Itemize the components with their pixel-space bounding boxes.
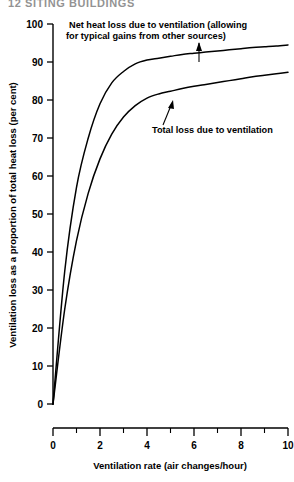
curve-total-loss [53,72,288,404]
y-tick-label: 20 [32,323,44,334]
x-axis-tick-labels: 0 2 4 6 8 10 [50,440,294,451]
y-tick-label: 60 [32,171,44,182]
x-tick-label: 4 [144,440,150,451]
y-tick-label: 100 [26,19,43,30]
y-tick-label: 40 [32,247,44,258]
y-tick-label: 80 [32,95,44,106]
ventilation-loss-chart: 100 90 80 70 60 50 40 30 20 10 0 Ventila… [0,0,294,482]
annotation-net-heat-loss-line2: for typical gains from other sources) [66,31,226,41]
x-axis-ticks [53,428,288,436]
x-tick-label: 0 [50,440,56,451]
annotation-net-heat-loss: Net heat loss due to ventilation (allowi… [66,20,247,62]
x-tick-label: 6 [191,440,197,451]
annotation-net-heat-loss-arrowhead [196,42,202,51]
annotation-total-loss: Total loss due to ventilation [152,100,273,135]
y-tick-label: 0 [37,399,43,410]
annotation-net-heat-loss-line1: Net heat loss due to ventilation (allowi… [69,20,247,30]
y-tick-label: 30 [32,285,44,296]
x-axis-group: 0 2 4 6 8 10 Ventilation rate (air chang… [50,428,294,471]
y-tick-label: 90 [32,57,44,68]
x-tick-label: 10 [282,440,294,451]
annotation-total-loss-line1: Total loss due to ventilation [152,125,273,135]
x-tick-label: 8 [238,440,244,451]
annotation-total-loss-arrowhead [168,100,174,109]
y-axis-group: 100 90 80 70 60 50 40 30 20 10 0 Ventila… [7,19,53,410]
y-axis-tick-labels: 100 90 80 70 60 50 40 30 20 10 0 [26,19,43,410]
y-tick-label: 50 [32,209,44,220]
series-curves [53,45,288,404]
chart-canvas: 100 90 80 70 60 50 40 30 20 10 0 Ventila… [0,0,294,482]
y-tick-label: 70 [32,133,44,144]
x-axis-title: Ventilation rate (air changes/hour) [93,460,247,471]
x-tick-label: 2 [97,440,103,451]
y-axis-title: Ventilation loss as a proportion of tota… [7,82,18,348]
y-axis-ticks [47,24,53,404]
y-tick-label: 10 [32,361,44,372]
curve-net-heat-loss-main [53,45,288,404]
